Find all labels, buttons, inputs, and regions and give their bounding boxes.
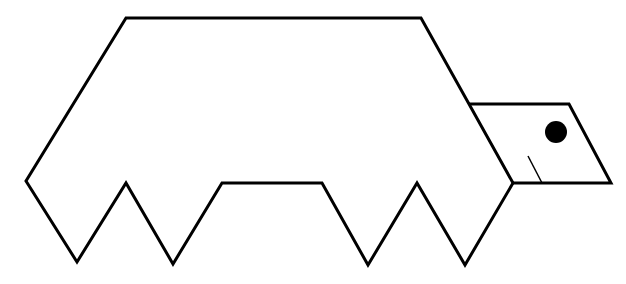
turtle-neck-line [469,104,513,183]
turtle-eye-icon [545,121,567,143]
turtle-mouth-line [528,156,542,183]
turtle-svg [0,0,626,284]
turtle-shell-and-legs [26,18,513,265]
turtle-drawing [0,0,626,284]
